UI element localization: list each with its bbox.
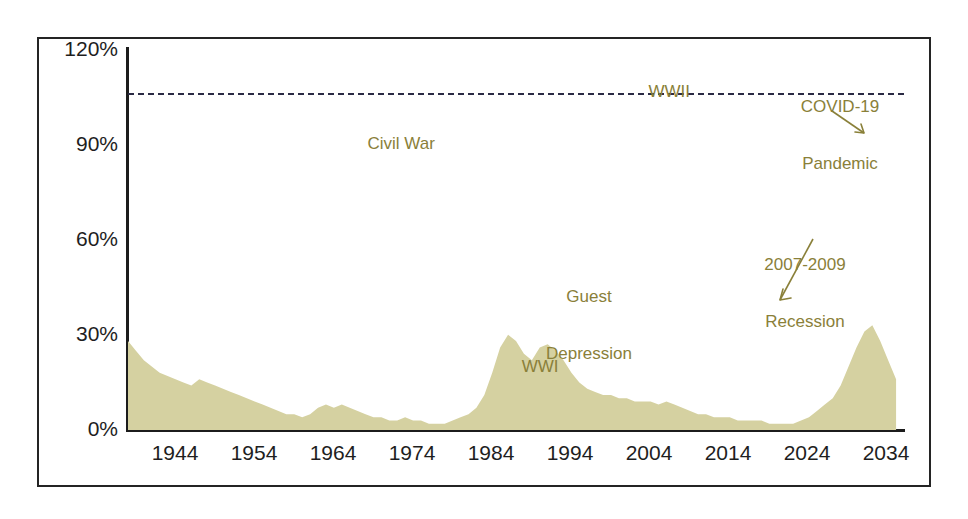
x-tick-1944: 1944 xyxy=(152,441,199,465)
annotation-recession-line1: 2007-2009 xyxy=(764,255,845,274)
annotation-covid-line2: Pandemic xyxy=(801,154,879,173)
plot-area: Civil War WWI Guest Depression WWII 2007… xyxy=(128,49,904,430)
y-tick-60: 60% xyxy=(76,227,118,251)
annotation-great-depression-line2: Depression xyxy=(546,344,632,363)
x-tick-2034: 2034 xyxy=(863,441,910,465)
x-tick-2024: 2024 xyxy=(784,441,831,465)
annotation-wwii: WWII xyxy=(620,63,690,120)
x-tick-1954: 1954 xyxy=(231,441,278,465)
annotation-great-depression: Guest Depression xyxy=(546,249,632,401)
y-tick-30: 30% xyxy=(76,322,118,346)
x-tick-2004: 2004 xyxy=(626,441,673,465)
x-tick-1994: 1994 xyxy=(547,441,594,465)
x-tick-1964: 1964 xyxy=(310,441,357,465)
annotation-recession-line2: Recession xyxy=(764,312,845,331)
annotation-covid: COVID-19 Pandemic xyxy=(801,59,879,211)
x-tick-1984: 1984 xyxy=(468,441,515,465)
annotation-great-depression-line1: Guest xyxy=(546,287,632,306)
y-tick-0: 0% xyxy=(88,417,118,441)
chart-page: 120% 90% 60% 30% 0% Civil War WWI xyxy=(0,0,968,519)
annotation-covid-line1: COVID-19 xyxy=(801,97,879,116)
x-tick-2014: 2014 xyxy=(705,441,752,465)
y-tick-120: 120% xyxy=(64,37,118,61)
x-tick-1974: 1974 xyxy=(389,441,436,465)
annotation-wwii-label: WWII xyxy=(648,82,690,101)
y-axis-tick-labels: 120% 90% 60% 30% 0% xyxy=(30,0,118,519)
annotation-civil-war-label: Civil War xyxy=(367,134,434,153)
annotation-civil-war: Civil War xyxy=(339,115,435,172)
y-tick-90: 90% xyxy=(76,132,118,156)
annotation-recession: 2007-2009 Recession xyxy=(764,217,845,369)
